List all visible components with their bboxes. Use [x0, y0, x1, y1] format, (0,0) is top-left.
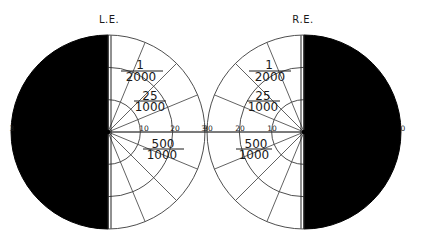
right-axis-label-30: 30 [203, 124, 213, 133]
left-edge-label: 3 [10, 124, 15, 133]
right-eye-blind-hemifield [304, 35, 401, 229]
right-eye-label: R.E. [292, 14, 313, 25]
left-isopter-1-denominator: 2000 [126, 70, 157, 84]
right-edge-label: 0 [401, 124, 406, 133]
right-isopter-2-denominator: 1000 [248, 100, 279, 114]
right-eye-field: R.E. 10 20 30 0 1 2000 25 1000 500 1000 [203, 14, 405, 229]
left-eye-label: L.E. [99, 14, 119, 25]
right-eye-geometry [204, 35, 401, 229]
left-axis-label-10: 10 [139, 124, 149, 133]
right-isopter-1-denominator: 2000 [255, 70, 286, 84]
right-axis-label-10: 10 [267, 124, 277, 133]
left-eye-fixation-point [106, 130, 110, 134]
left-isopter-2-denominator: 1000 [135, 100, 166, 114]
left-eye-field: L.E. 10 20 30 3 1 2000 25 1000 500 1000 [10, 14, 211, 229]
left-axis-label-20: 20 [170, 124, 180, 133]
left-isopter-3-denominator: 1000 [147, 148, 178, 162]
right-isopter-3-denominator: 1000 [239, 148, 270, 162]
left-eye-blind-hemifield [11, 35, 108, 229]
right-axis-label-20: 20 [235, 124, 245, 133]
visual-field-diagram: L.E. 10 20 30 3 1 2000 25 1000 500 1000 … [0, 0, 423, 237]
right-eye-fixation-point [302, 130, 306, 134]
